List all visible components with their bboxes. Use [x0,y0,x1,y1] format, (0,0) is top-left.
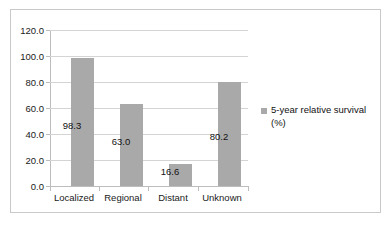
data-label-regional: 63.0 [104,136,138,147]
y-tick-label-40: 40.0 [2,130,44,140]
y-tick-label-100: 100.0 [2,52,44,62]
gridline-120 [50,30,248,31]
y-tick-label-0: 0.0 [2,182,44,192]
y-tick-label-60: 60.0 [2,104,44,114]
gridline-100 [50,56,248,57]
x-tick-mark-4 [248,187,249,191]
y-tick-label-120: 120.0 [2,26,44,36]
plot-area [50,30,248,186]
x-tick-mark-2 [148,187,149,191]
x-axis-line [50,186,249,187]
x-tick-mark-1 [99,187,100,191]
y-tick-label-20: 20.0 [2,156,44,166]
y-axis: 120.0 100.0 80.0 60.0 40.0 20.0 0.0 [0,0,44,229]
x-label-unknown: Unknown [192,192,252,204]
legend-entry[interactable]: 5-year relative survival (%) [261,104,373,129]
chart-figure: 120.0 100.0 80.0 60.0 40.0 20.0 0.0 98.3… [0,0,390,229]
data-label-distant: 16.6 [153,166,187,177]
legend-label-line2: (%) [271,117,286,128]
legend-entry-label: 5-year relative survival (%) [271,104,371,129]
y-tick-label-80: 80.0 [2,78,44,88]
x-tick-mark-0 [50,187,51,191]
legend-label-line1: 5-year relative survival [271,104,366,115]
chart-legend: 5-year relative survival (%) [261,104,373,129]
data-label-localized: 98.3 [55,120,89,131]
x-tick-mark-3 [198,187,199,191]
data-label-unknown: 80.2 [202,131,236,142]
legend-swatch-icon [261,108,267,114]
